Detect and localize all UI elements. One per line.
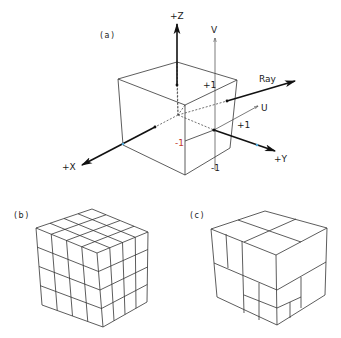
hidden-x-axis (155, 115, 178, 127)
cube-edge (118, 62, 177, 79)
subdivision-line (277, 262, 326, 290)
grid-line-right (135, 237, 136, 308)
panel-b-uniform-grid-cube (36, 209, 148, 327)
v-minus-one-line (185, 130, 214, 141)
cube-edge (177, 62, 237, 80)
cube-edge (211, 229, 276, 255)
panel-a: (a) +Z+X+YVURay +1+1-1-1 (62, 11, 295, 175)
axis-label-v: V (211, 25, 218, 35)
panel-c-label: (c) (190, 211, 205, 220)
cube-edge (217, 297, 277, 325)
cube-edge (276, 228, 327, 255)
subdivision-line (242, 241, 244, 313)
tick-label: +1 (237, 120, 250, 130)
panel-b: (b) (14, 209, 148, 327)
z-origin-dot (176, 84, 179, 87)
cube-edge (325, 228, 327, 295)
grid-line-left (41, 286, 102, 309)
grid-line-left (39, 267, 100, 291)
cube-edge (123, 145, 185, 175)
cube-edge (118, 79, 185, 105)
uv-origin-dot (212, 128, 215, 131)
cube-edge (265, 211, 327, 228)
subdivision-line (214, 263, 277, 290)
cube-edge (185, 148, 230, 175)
axis-ray (227, 81, 295, 101)
panel-a-tick-labels: +1+1-1-1 (175, 80, 250, 173)
axis-u (214, 106, 258, 130)
grid-line-top (67, 221, 121, 241)
hidden-edge (178, 105, 185, 115)
subdivision-line (244, 219, 296, 242)
tick-label: +1 (203, 80, 216, 90)
panel-b-label: (b) (14, 211, 30, 220)
subdivision-line (277, 297, 301, 308)
grid-line-left (82, 247, 88, 322)
y-marker (256, 144, 259, 147)
x-dot (154, 126, 157, 129)
subdivision-line (226, 234, 228, 268)
ray-origin-dot (226, 100, 229, 103)
panel-c-adaptive-octree-cube (211, 211, 327, 325)
cube-edge (118, 79, 123, 145)
axis-label-u: U (261, 103, 268, 113)
axis-plus-x (82, 127, 155, 165)
grid-line-top (50, 223, 110, 248)
cube-edge (36, 209, 92, 228)
cube-subdivision-diagram: (a) +Z+X+YVURay +1+1-1-1 (b) (c) (0, 0, 341, 338)
tick-label: -1 (211, 163, 220, 173)
x-face-marker (122, 143, 125, 146)
hidden-y-axis (178, 115, 214, 130)
panel-a-label: (a) (100, 31, 116, 40)
subdivision-line (244, 295, 277, 308)
axis-plus-y (214, 130, 275, 151)
axis-label-plus-x: +X (62, 162, 76, 172)
axis-label-plus-z: +Z (170, 11, 184, 21)
axis-label-plus-y: +Y (274, 154, 288, 164)
axis-label-ray: Ray (259, 74, 277, 84)
panel-c: (c) (190, 211, 327, 325)
tick-label: -1 (175, 138, 184, 148)
